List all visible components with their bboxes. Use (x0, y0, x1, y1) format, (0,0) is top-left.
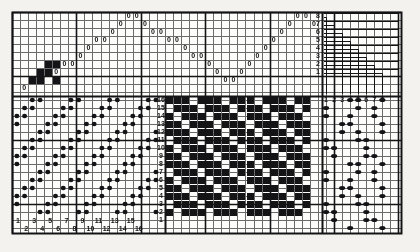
bottom-axis-labels (12, 217, 165, 233)
threading-draft[interactable] (12, 12, 322, 96)
weaving-draft-page: Weaving draft: threading, tie-up, treadl… (0, 0, 420, 252)
peg-plan-grid[interactable] (12, 96, 165, 217)
tie-up-grid[interactable] (322, 12, 401, 96)
treadling-draft[interactable] (322, 96, 401, 233)
drawdown-grid (165, 96, 322, 217)
